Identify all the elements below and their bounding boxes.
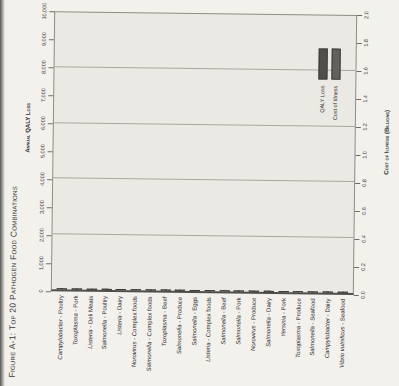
bar-cost-of-illness — [180, 290, 185, 291]
cost-axis-tick — [354, 267, 359, 268]
qaly-axis-tick-label: 2,000 — [38, 228, 44, 242]
qaly-axis-tick — [46, 263, 51, 264]
bar-cost-of-illness — [269, 291, 274, 292]
qaly-axis-tick — [49, 67, 54, 68]
qaly-axis-tick-label: 3,000 — [39, 200, 45, 214]
cost-axis-tick-label: 1.8 — [363, 39, 369, 47]
pathogen-name: Yersinia — [280, 316, 286, 337]
category-label: Norovirus - Produce — [249, 298, 258, 386]
category-label: Toxoplasma - Produce — [294, 298, 303, 386]
pathogen-name: Campylobacter — [57, 319, 63, 359]
pathogen-name: Salmonella — [220, 315, 226, 345]
pathogen-name: Salmonella — [102, 320, 108, 350]
bar-group — [291, 291, 306, 292]
qaly-axis-tick-label: 9,000 — [41, 32, 47, 46]
cost-axis-tick — [355, 155, 360, 156]
cost-axis-tick-label: 0.6 — [361, 207, 367, 215]
bar-cost-of-illness — [92, 289, 97, 290]
bar-cost-of-illness — [151, 289, 156, 290]
bar-cost-of-illness — [224, 290, 229, 291]
bar-cost-of-illness — [195, 290, 200, 291]
category-label: Yersinia - Pork — [279, 298, 288, 386]
bar-cost-of-illness — [210, 290, 215, 291]
bar-cost-of-illness — [239, 290, 244, 291]
bar-cost-of-illness — [165, 290, 170, 291]
category-label: Salmonella - Dairy — [264, 298, 273, 386]
bar-cost-of-illness — [106, 289, 111, 290]
category-label: Listeria - Deli Meats — [86, 296, 95, 386]
plot-area — [51, 11, 357, 295]
bar-group — [114, 289, 129, 290]
cost-axis-tick-label: 1.0 — [361, 151, 367, 159]
bar-group — [143, 289, 158, 290]
qaly-axis-title: Annual QALY Loss — [24, 103, 31, 153]
bar-cost-of-illness — [298, 291, 303, 292]
category-label: Toxoplasma - Beef — [160, 297, 169, 386]
bar-cost-of-illness — [121, 289, 126, 290]
bar-groups — [52, 12, 356, 293]
bar-group — [70, 288, 85, 289]
bar-group — [158, 290, 173, 291]
qaly-axis-tick — [46, 291, 51, 292]
bar-group — [202, 290, 217, 291]
pathogen-name: Listeria — [87, 329, 93, 348]
cost-axis-tick — [354, 295, 359, 296]
pathogen-name: Salmonella — [309, 326, 315, 356]
figure-title: Figure A-1: Top 20 Pathogen Food Combina… — [7, 186, 19, 378]
bar-group — [261, 291, 276, 292]
category-label: Salmonella - Beef — [219, 297, 228, 386]
pathogen-name: Campylobacter — [324, 318, 330, 358]
pathogen-name: Norovirus — [250, 325, 256, 351]
bar-cost-of-illness — [328, 292, 333, 293]
pathogen-name: Salmonella — [265, 317, 271, 347]
pathogen-name: Toxoplasma — [161, 314, 167, 346]
cost-axis-tick — [354, 239, 359, 240]
qaly-axis-tick-label: 4,000 — [39, 172, 45, 186]
pathogen-name: Listeria — [205, 342, 211, 361]
cost-axis-tick-label: 0.2 — [360, 263, 366, 271]
pathogen-name: Salmonella — [235, 315, 241, 345]
category-label: Salmonella - Complex foods — [145, 296, 154, 386]
bar-group — [173, 290, 188, 291]
category-label: Salmonella - Pork — [234, 297, 243, 386]
cost-axis-tick-label: 1.6 — [362, 67, 368, 75]
cost-axis-title: Cost of Illness (Billions) — [383, 110, 390, 175]
bar-cost-of-illness — [342, 292, 347, 293]
qaly-axis-tick — [47, 207, 52, 208]
pathogen-name: Toxoplasma — [295, 326, 301, 358]
pathogen-name: Salmonella — [146, 342, 152, 372]
pathogen-name: Salmonella — [176, 324, 182, 354]
bar-group — [188, 290, 203, 291]
bar-group — [306, 291, 321, 292]
category-label: Listeria - Complex foods — [204, 297, 213, 386]
category-label: Campylobacter - Dairy — [323, 299, 332, 386]
bar-cost-of-illness — [254, 291, 259, 292]
pathogen-name: Salmonella — [191, 316, 197, 346]
category-label: Salmonella - Eggs — [190, 297, 199, 386]
axes-and-labels: 01,0002,0003,0004,0005,0006,0007,0008,00… — [2, 0, 399, 2]
category-label: Toxoplasma - Pork — [71, 295, 80, 386]
category-label: Norovirus - Complex foods — [130, 296, 139, 386]
cost-axis-tick — [356, 99, 361, 100]
cost-axis-tick-label: 0.4 — [360, 235, 366, 243]
cost-axis-tick-label: 0.0 — [360, 291, 366, 299]
qaly-axis-tick-label: 0 — [38, 290, 44, 293]
cost-axis-tick-label: 2.0 — [363, 11, 369, 19]
scan-edge-shadow — [0, 0, 5, 386]
qaly-axis-tick — [48, 123, 53, 124]
bar-cost-of-illness — [77, 289, 82, 290]
legend-swatch — [331, 49, 340, 80]
qaly-axis-tick — [49, 39, 54, 40]
bar-group — [276, 291, 291, 292]
bar-group — [99, 289, 114, 290]
scanned-page: Figure A-1: Top 20 Pathogen Food Combina… — [0, 0, 399, 386]
category-label: Salmonella - Produce — [175, 297, 184, 386]
cost-axis-tick-label: 1.2 — [362, 123, 368, 131]
qaly-axis-tick — [46, 235, 51, 236]
bar-group — [232, 290, 247, 291]
bar-group — [335, 292, 350, 293]
bar-group — [320, 291, 335, 292]
bar-cost-of-illness — [313, 291, 318, 292]
cost-axis-tick-label: 1.4 — [362, 95, 368, 103]
category-label: Campylobacter - Poultry — [56, 295, 65, 386]
